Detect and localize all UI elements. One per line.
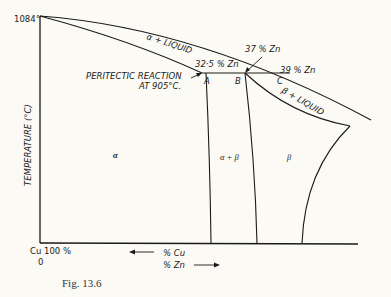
point-c-label: C	[277, 76, 283, 86]
point-a-label: A	[203, 76, 210, 86]
alpha-region-label: α	[113, 150, 118, 160]
alpha-beta-region-label: α + β	[220, 152, 239, 162]
beta-liquid-label: β + LIQUID	[279, 85, 326, 118]
point-b-composition: 37 % Zn	[245, 44, 281, 54]
point-c-composition: 39 % Zn	[280, 65, 316, 75]
beta-region-label: β	[286, 152, 292, 162]
y-axis-label: TEMPERATURE (°C)	[23, 104, 33, 186]
beta-right-boundary	[302, 126, 350, 243]
zn-arrow-label: % Zn	[163, 260, 185, 270]
figure-caption: Fig. 13.6	[62, 277, 102, 289]
x-origin-label: Cu 100 %	[30, 246, 71, 256]
point-a-composition: 32·5 % Zn	[195, 59, 239, 69]
peritectic-label: PERITECTIC REACTION	[86, 71, 182, 81]
alpha-solvus-line	[206, 73, 211, 243]
zn-arrowhead	[214, 263, 220, 268]
x-axis	[40, 243, 358, 244]
b-composition-arrowhead	[245, 67, 250, 73]
peritectic-temp-label: AT 905°C.	[138, 81, 181, 91]
beta-solvus-line	[245, 73, 257, 243]
y-top-tick: 1084°	[14, 14, 40, 24]
cu-arrowhead	[129, 250, 135, 255]
x-origin-value: 0	[38, 257, 43, 267]
cu-arrow-label: % Cu	[163, 248, 185, 258]
phase-diagram: 1084° TEMPERATURE (°C) α + LIQUID β + LI…	[0, 0, 391, 297]
point-b-label: B	[235, 76, 241, 86]
